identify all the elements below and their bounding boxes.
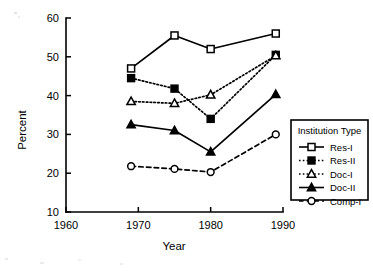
legend-title: Institution Type xyxy=(298,125,362,136)
data-point-doc-i xyxy=(206,90,214,98)
data-point-res-i xyxy=(128,65,135,72)
x-axis-ticks: 1960197019801990 xyxy=(54,207,295,231)
data-point-res-i xyxy=(171,32,178,39)
legend: Institution Type Res-IRes-IIDoc-IDoc-IIC… xyxy=(291,120,368,207)
data-point-comp-i xyxy=(171,166,178,173)
data-point-comp-i xyxy=(207,169,214,176)
data-point-res-i xyxy=(272,30,279,37)
data-point-res-ii xyxy=(207,115,214,122)
x-tick-label: 1970 xyxy=(126,219,150,231)
data-point-comp-i xyxy=(128,163,135,170)
legend-label: Doc-I xyxy=(330,169,353,180)
data-series-layer xyxy=(127,30,280,175)
x-tick-label: 1990 xyxy=(271,219,295,231)
data-point-doc-i xyxy=(170,99,178,107)
data-point-legend xyxy=(308,198,315,205)
chart-axes: 102030405060 1960197019801990 xyxy=(47,12,295,231)
y-tick-label: 60 xyxy=(47,12,59,24)
data-point-doc-ii xyxy=(272,90,280,98)
series-line-comp-i xyxy=(131,134,276,172)
series-line-res-ii xyxy=(131,55,276,119)
data-point-res-ii xyxy=(128,75,135,82)
data-point-legend xyxy=(308,144,315,151)
series-line-doc-i xyxy=(131,56,276,104)
data-point-doc-i xyxy=(127,97,135,105)
y-axis-title: Percent xyxy=(16,109,28,149)
series-comp-i xyxy=(128,131,279,175)
y-tick-label: 30 xyxy=(47,128,59,140)
legend-label: Res-II xyxy=(330,155,355,166)
y-tick-label: 10 xyxy=(47,206,59,218)
legend-label: Res-I xyxy=(330,142,353,153)
x-tick-label: 1980 xyxy=(198,219,222,231)
series-line-res-i xyxy=(131,34,276,69)
data-point-doc-ii xyxy=(127,120,135,128)
y-tick-label: 50 xyxy=(47,51,59,63)
legend-label: Doc-II xyxy=(330,182,355,193)
series-doc-i xyxy=(127,51,280,106)
y-tick-label: 40 xyxy=(47,90,59,102)
legend-label: Comp-I xyxy=(330,196,361,207)
series-line-doc-ii xyxy=(131,94,276,151)
data-point-res-ii xyxy=(171,85,178,92)
y-axis-ticks: 102030405060 xyxy=(47,12,71,218)
data-point-res-i xyxy=(207,46,214,53)
data-point-comp-i xyxy=(272,131,279,138)
y-tick-label: 20 xyxy=(47,167,59,179)
chart-figure: 102030405060 1960197019801990 Percent Ye… xyxy=(0,0,373,271)
data-point-legend xyxy=(308,157,315,164)
x-axis-title: Year xyxy=(162,240,185,252)
line-chart: 102030405060 1960197019801990 Percent Ye… xyxy=(0,0,373,271)
series-res-i xyxy=(128,30,280,72)
x-tick-label: 1960 xyxy=(54,219,78,231)
